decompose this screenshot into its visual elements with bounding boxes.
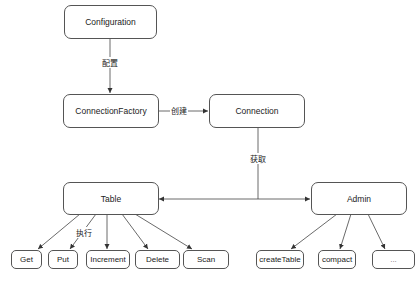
node-table-label: Table <box>101 194 121 204</box>
edge-label-create: 创建 <box>170 105 188 116</box>
diagram-edges <box>0 0 417 281</box>
node-more-label: ... <box>390 255 397 264</box>
node-configuration: Configuration <box>64 5 157 39</box>
node-table: Table <box>63 182 159 215</box>
node-put: Put <box>48 250 78 269</box>
node-admin-label: Admin <box>347 194 371 204</box>
node-increment-label: Increment <box>90 255 126 264</box>
node-connection: Connection <box>209 94 305 128</box>
node-get-label: Get <box>20 255 33 264</box>
node-connection-factory: ConnectionFactory <box>63 94 159 128</box>
node-connection-label: Connection <box>235 106 278 116</box>
node-configuration-label: Configuration <box>85 17 136 27</box>
node-create-table-label: createTable <box>259 255 300 264</box>
edge-label-configure: 配置 <box>101 57 119 68</box>
node-connection-factory-label: ConnectionFactory <box>75 106 146 116</box>
node-increment: Increment <box>86 250 130 269</box>
node-more: ... <box>372 250 415 269</box>
node-delete-label: Delete <box>146 255 169 264</box>
node-compact-label: compact <box>322 255 352 264</box>
node-admin: Admin <box>311 182 407 215</box>
node-put-label: Put <box>57 255 69 264</box>
node-scan: Scan <box>183 250 229 269</box>
node-get: Get <box>11 250 42 269</box>
node-compact: compact <box>318 250 356 269</box>
edge-label-execute: 执行 <box>75 227 93 238</box>
node-scan-label: Scan <box>197 255 215 264</box>
edge-label-obtain: 获取 <box>249 153 267 164</box>
node-delete: Delete <box>135 250 180 269</box>
node-create-table: createTable <box>256 250 304 269</box>
